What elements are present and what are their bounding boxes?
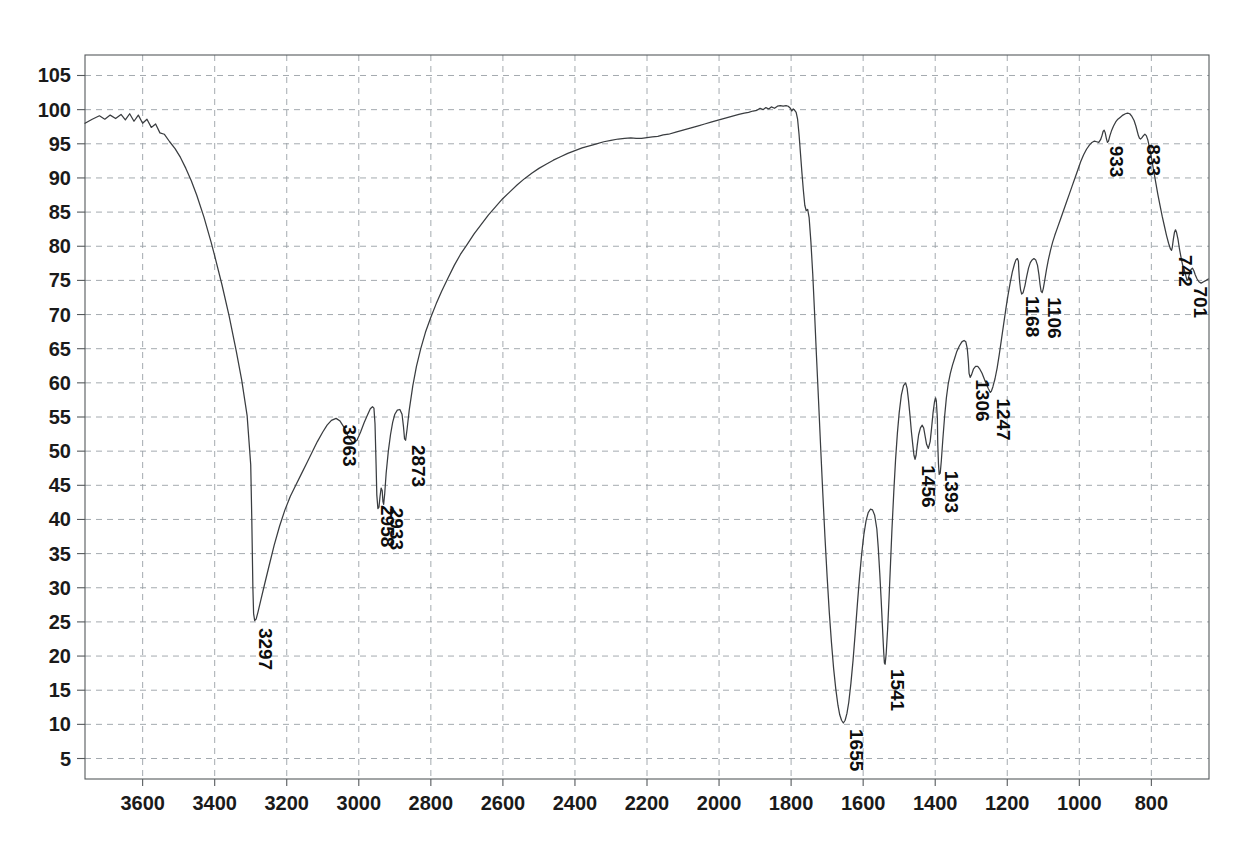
x-axis-tick-labels: 3600340032003000280026002400220020001800… [120, 792, 1168, 814]
x-tick-label: 2000 [697, 792, 742, 814]
peak-label: 933 [1106, 146, 1127, 178]
peak-label: 833 [1143, 144, 1164, 176]
peak-label: 2933 [386, 508, 407, 550]
y-tick-label: 85 [49, 201, 71, 223]
y-tick-label: 60 [49, 372, 71, 394]
y-tick-label: 25 [49, 611, 71, 633]
y-tick-label: 50 [49, 440, 71, 462]
tick-marks [77, 75, 1151, 786]
peak-label: 1541 [887, 669, 908, 712]
spectrum-plot-svg: 5101520253035404550556065707580859095100… [0, 0, 1257, 846]
peak-label: 1456 [918, 465, 939, 507]
y-tick-label: 30 [49, 577, 71, 599]
y-tick-label: 55 [49, 406, 71, 428]
peak-label: 1393 [941, 471, 962, 513]
peak-label: 742 [1175, 255, 1196, 287]
x-tick-label: 2400 [553, 792, 598, 814]
y-tick-label: 10 [49, 713, 71, 735]
y-tick-label: 15 [49, 679, 71, 701]
peak-label: 1106 [1044, 297, 1065, 338]
peak-label: 701 [1190, 286, 1211, 318]
x-tick-label: 1400 [913, 792, 958, 814]
peak-label: 1247 [993, 398, 1014, 440]
x-tick-label: 800 [1135, 792, 1168, 814]
peak-label: 1168 [1022, 296, 1043, 337]
x-tick-label: 3400 [192, 792, 237, 814]
x-tick-label: 1200 [985, 792, 1030, 814]
x-tick-label: 3600 [120, 792, 165, 814]
x-tick-label: 1600 [841, 792, 886, 814]
y-tick-label: 40 [49, 508, 71, 530]
peak-label: 3297 [255, 628, 276, 670]
ftir-spectrum-chart: 5101520253035404550556065707580859095100… [0, 0, 1257, 846]
y-tick-label: 95 [49, 133, 71, 155]
x-tick-label: 1000 [1057, 792, 1102, 814]
y-tick-label: 90 [49, 167, 71, 189]
peak-annotation-labels: 3297306329582933287316551541145613931306… [255, 144, 1211, 771]
y-tick-label: 70 [49, 304, 71, 326]
y-tick-label: 35 [49, 543, 71, 565]
y-tick-label: 80 [49, 235, 71, 257]
x-tick-label: 2800 [409, 792, 454, 814]
y-tick-label: 65 [49, 338, 71, 360]
peak-label: 1655 [846, 729, 867, 772]
y-axis-tick-labels: 5101520253035404550556065707580859095100… [38, 64, 71, 769]
y-tick-label: 100 [38, 99, 71, 121]
x-tick-label: 3000 [337, 792, 382, 814]
x-tick-label: 3200 [264, 792, 309, 814]
peak-label: 3063 [339, 424, 360, 466]
y-tick-label: 105 [38, 64, 71, 86]
peak-label: 1306 [972, 379, 993, 421]
y-tick-label: 45 [49, 474, 71, 496]
y-tick-label: 20 [49, 645, 71, 667]
grid-lines-horizontal [85, 75, 1209, 758]
y-tick-label: 5 [60, 748, 71, 770]
x-tick-label: 2600 [481, 792, 526, 814]
y-tick-label: 75 [49, 269, 71, 291]
peak-label: 2873 [408, 445, 429, 487]
x-tick-label: 2200 [625, 792, 670, 814]
x-tick-label: 1800 [769, 792, 814, 814]
